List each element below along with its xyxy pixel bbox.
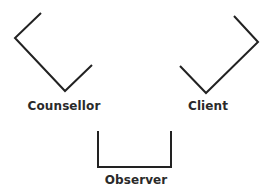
- observer-chair-shape: [98, 131, 171, 167]
- client-chair-shape: [180, 16, 258, 93]
- counsellor-label: Counsellor: [28, 99, 101, 113]
- observer-label: Observer: [105, 173, 168, 187]
- client-label: Client: [188, 99, 228, 113]
- counsellor-chair-shape: [15, 13, 92, 91]
- diagram-canvas: [0, 0, 272, 192]
